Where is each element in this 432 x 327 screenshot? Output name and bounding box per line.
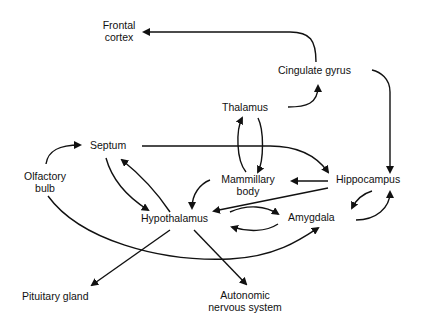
thalamus-label: Thalamus [222, 101, 268, 113]
node-olfactory-bulb: Olfactory bulb [18, 170, 72, 194]
hypothalamus-label: Hypothalamus [141, 212, 208, 224]
node-hypothalamus: Hypothalamus [141, 212, 208, 224]
edge-olfactory-to-amygdala [48, 196, 318, 259]
autonomic-line2: nervous system [200, 301, 290, 313]
edge-septum-to-hypothalamus [106, 158, 148, 210]
hippocampus-label: Hippocampus [336, 173, 400, 185]
limbic-diagram: Frontal cortex Cingulate gyrus Thalamus … [0, 0, 432, 327]
node-mammillary-body: Mammillary body [214, 173, 282, 197]
node-pituitary-gland: Pituitary gland [22, 290, 89, 302]
septum-label: Septum [90, 139, 126, 151]
frontal-cortex-line1: Frontal [98, 19, 140, 31]
edge-olfactory-to-septum [46, 145, 80, 164]
amygdala-label: Amygdala [288, 211, 335, 223]
node-hippocampus: Hippocampus [336, 173, 400, 185]
pituitary-gland-label: Pituitary gland [22, 290, 89, 302]
edge-hypothalamus-to-amygdala [230, 207, 278, 214]
edge-thalamus-to-mammillary [258, 118, 263, 172]
node-frontal-cortex: Frontal cortex [98, 19, 140, 43]
edge-mammillary-to-thalamus [238, 118, 246, 172]
connection-arrows [0, 0, 432, 327]
edge-hypothalamus-to-autonomic [194, 230, 246, 284]
mammillary-body-line2: body [214, 185, 282, 197]
node-septum: Septum [90, 139, 126, 151]
olfactory-bulb-line2: bulb [18, 182, 72, 194]
edge-hippocampus-to-amygdala [352, 191, 372, 208]
olfactory-bulb-line1: Olfactory [18, 170, 72, 182]
autonomic-line1: Autonomic [200, 289, 290, 301]
edge-septum-to-hippocampus [142, 146, 328, 172]
cingulate-gyrus-label: Cingulate gyrus [278, 64, 351, 76]
edge-cingulate-to-hippocampus [372, 70, 390, 172]
mammillary-body-line1: Mammillary [214, 173, 282, 185]
edge-amygdala-to-hypothalamus [232, 224, 278, 230]
edge-cingulate-to-frontal [144, 32, 316, 62]
node-cingulate-gyrus: Cingulate gyrus [278, 64, 351, 76]
edge-hypothalamus-to-pituitary [92, 230, 170, 285]
node-autonomic-nervous-system: Autonomic nervous system [200, 289, 290, 313]
node-amygdala: Amygdala [288, 211, 335, 223]
edge-mammillary-to-hypothalamus [192, 180, 210, 208]
edge-hypothalamus-to-septum [122, 160, 170, 212]
frontal-cortex-line2: cortex [98, 31, 140, 43]
edge-thalamus-to-cingulate [288, 86, 318, 107]
node-thalamus: Thalamus [222, 101, 268, 113]
